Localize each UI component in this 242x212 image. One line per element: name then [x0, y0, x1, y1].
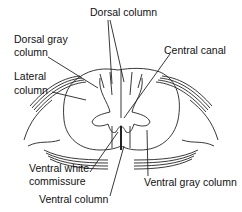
leader-dorsal-column-right — [110, 20, 124, 82]
label-ventral-column: Ventral column — [39, 193, 108, 205]
label-dorsal-gray-column-line1: Dorsal gray — [14, 33, 68, 45]
leader-ventral-column — [110, 146, 124, 196]
label-lateral-column-line1: Lateral — [14, 70, 46, 82]
label-central-canal: Central canal — [164, 44, 226, 56]
label-lateral-column-line2: column — [14, 84, 48, 96]
label-ventral-white-commissure-line2: commissure — [29, 175, 86, 187]
leader-dorsal-gray-column — [48, 57, 98, 88]
leader-lateral-column — [52, 92, 86, 100]
label-ventral-white-commissure-line1: Ventral white — [29, 162, 89, 174]
label-dorsal-gray-column-line2: column — [14, 46, 48, 58]
label-ventral-gray-column: Ventral gray column — [144, 176, 237, 188]
label-dorsal-column: Dorsal column — [90, 6, 157, 18]
spinal-cord-diagram: Dorsal column Dorsal gray column Lateral… — [0, 0, 242, 212]
